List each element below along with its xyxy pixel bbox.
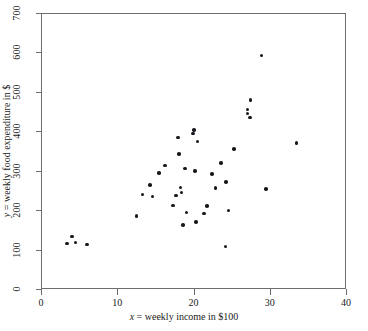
data-point xyxy=(202,212,206,216)
x-axis-tick-label: 40 xyxy=(331,297,361,308)
x-axis-tick-label: 10 xyxy=(102,297,132,308)
x-axis-tick xyxy=(117,289,118,295)
scatter-plot-figure: 0100200300400500600700 010203040 x = wee… xyxy=(0,0,368,331)
data-point xyxy=(191,132,195,136)
x-axis-title: x = weekly income in $100 xyxy=(0,311,368,323)
x-axis-tick xyxy=(270,289,271,295)
x-axis-tick xyxy=(41,289,42,295)
y-axis-tick xyxy=(36,92,42,93)
data-point xyxy=(193,169,197,173)
y-axis-tick xyxy=(36,131,42,132)
data-point xyxy=(264,187,268,191)
data-point xyxy=(183,167,187,171)
y-axis-tick xyxy=(36,250,42,251)
plot-area xyxy=(41,13,346,289)
y-axis-tick xyxy=(36,171,42,172)
data-point xyxy=(135,214,139,218)
y-axis-title: y = weekly food expenditure in $ xyxy=(1,6,13,296)
data-point xyxy=(157,171,161,175)
data-point xyxy=(232,147,236,151)
data-point xyxy=(248,116,252,120)
data-point xyxy=(210,172,214,176)
data-point xyxy=(181,223,185,227)
data-point xyxy=(205,204,209,208)
data-point xyxy=(194,220,198,224)
data-point xyxy=(224,180,228,184)
x-axis-tick xyxy=(346,289,347,295)
data-point xyxy=(174,194,178,198)
data-point xyxy=(171,204,175,208)
y-axis-tick xyxy=(36,52,42,53)
y-axis-title-wrapper: y = weekly food expenditure in $ xyxy=(0,0,14,300)
y-axis-tick xyxy=(36,13,42,14)
y-axis-tick xyxy=(36,210,42,211)
x-axis-tick-label: 30 xyxy=(255,297,285,308)
x-axis-tick xyxy=(194,289,195,295)
data-point xyxy=(148,183,152,187)
data-point xyxy=(219,161,223,165)
data-point xyxy=(295,141,299,145)
data-point xyxy=(192,128,196,132)
data-point xyxy=(85,243,89,247)
data-point xyxy=(177,152,181,156)
x-axis-tick-label: 0 xyxy=(26,297,56,308)
x-axis-tick-label: 20 xyxy=(179,297,209,308)
